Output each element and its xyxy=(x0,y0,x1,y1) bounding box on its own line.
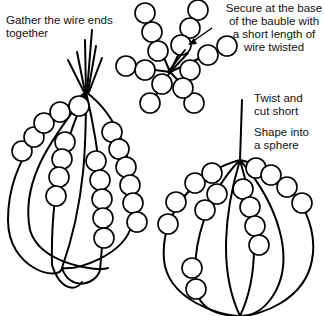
gather-label-line2: together xyxy=(6,27,113,40)
gather-label-line1: Gather the wire ends xyxy=(6,14,113,27)
secure-label-line1: Secure at the base xyxy=(224,2,324,15)
star-figure xyxy=(116,0,237,113)
secure-label-line2: of the bauble with xyxy=(224,15,324,28)
secure-label-line3: a short length of xyxy=(224,28,324,41)
gather-label: Gather the wire ends together xyxy=(6,14,113,40)
twist-label-line2: cut short xyxy=(254,105,303,118)
shape-label-line2: a sphere xyxy=(254,139,309,152)
twist-label: Twist and cut short xyxy=(254,92,303,118)
shape-label: Shape into a sphere xyxy=(254,126,309,152)
secure-label: Secure at the base of the bauble with a … xyxy=(224,2,324,54)
secure-label-line4: wire twisted xyxy=(224,41,324,54)
shape-label-line1: Shape into xyxy=(254,126,309,139)
twist-label-line1: Twist and xyxy=(254,92,303,105)
